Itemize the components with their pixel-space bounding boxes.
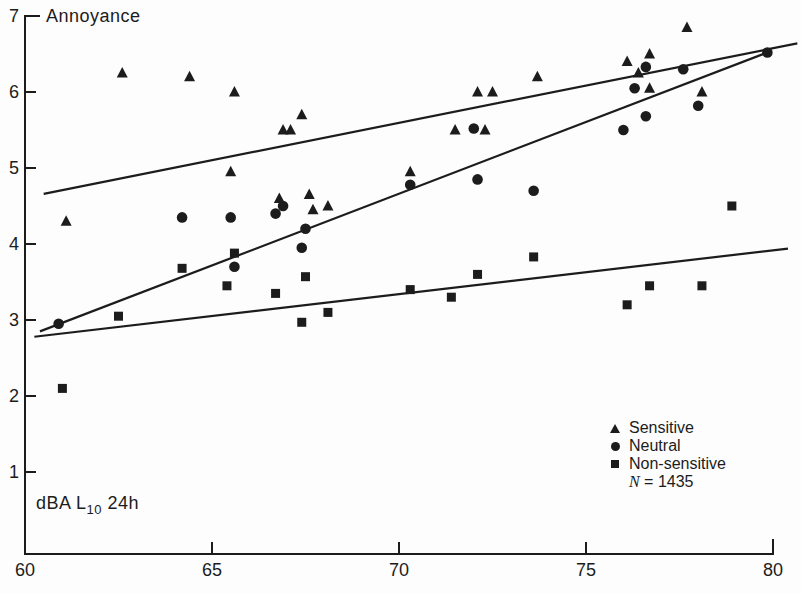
scatter-plot-figure: 12345676065707580 Annoyance dBA L10 24h …: [0, 0, 801, 593]
y-tick-label: 5: [9, 158, 19, 178]
sensitive-point: [184, 71, 195, 82]
circle-icon: [608, 442, 622, 451]
legend: Sensitive Neutral Non-sensitive N = 1435: [608, 419, 726, 491]
non-sensitive-point: [623, 300, 632, 309]
legend-item-neutral: Neutral: [608, 437, 726, 455]
sensitive-point: [296, 109, 307, 120]
non-sensitive-point: [58, 384, 67, 393]
sensitive-point: [532, 71, 543, 82]
y-axis-title: Annoyance: [46, 6, 141, 27]
non-sensitive-point: [178, 264, 187, 273]
non-sensitive-point: [473, 270, 482, 279]
non-sensitive-point: [727, 202, 736, 211]
y-tick-label: 2: [9, 386, 19, 406]
sensitive-point: [304, 189, 315, 200]
y-tick-label: 3: [9, 310, 19, 330]
legend-label-neutral: Neutral: [629, 437, 681, 455]
sensitive-point: [622, 56, 633, 67]
non-sensitive-point: [323, 308, 332, 317]
non-sensitive-point: [301, 272, 310, 281]
neutral-point: [472, 174, 483, 185]
y-tick-label: 7: [9, 6, 19, 26]
neutral-point: [678, 64, 689, 75]
legend-label-non-sensitive: Non-sensitive: [629, 455, 726, 473]
x-tick-label: 70: [389, 560, 409, 580]
sample-size-note: N = 1435: [629, 473, 726, 491]
sensitive-point: [644, 48, 655, 59]
non-sensitive-point: [406, 285, 415, 294]
neutral-point: [229, 262, 240, 273]
x-axis-label: dBA L10 24h: [36, 493, 139, 517]
non-sensitive-point: [529, 252, 538, 261]
sensitive-point: [472, 86, 483, 97]
non-sensitive-point: [697, 281, 706, 290]
sensitive-point: [487, 86, 498, 97]
legend-label-sensitive: Sensitive: [629, 419, 694, 437]
sample-size-value: = 1435: [640, 473, 694, 490]
neutral-point: [641, 62, 652, 73]
non-sensitive-point: [114, 312, 123, 321]
x-tick-label: 80: [763, 560, 783, 580]
neutral-point: [278, 201, 289, 212]
x-axis-label-pre: dBA L: [36, 493, 87, 513]
neutral-point: [641, 111, 652, 122]
neutral-point: [53, 319, 64, 330]
non-sensitive-point: [271, 289, 280, 298]
neutral-point: [693, 100, 704, 111]
neutral-point: [270, 208, 281, 219]
sensitive-point: [450, 124, 461, 135]
non-sensitive-point: [447, 293, 456, 302]
x-axis-label-subscript: 10: [87, 502, 102, 517]
neutral-point: [629, 83, 640, 94]
y-tick-label: 4: [9, 234, 19, 254]
sensitive-point: [322, 200, 333, 211]
sensitive-point: [225, 166, 236, 177]
legend-item-sensitive: Sensitive: [608, 419, 726, 437]
neutral-point: [296, 243, 307, 254]
x-tick-label: 60: [15, 560, 35, 580]
sensitive-point: [405, 166, 416, 177]
non-sensitive-point: [645, 281, 654, 290]
sensitive-point: [117, 67, 128, 78]
non-sensitive-point: [230, 249, 239, 258]
sample-size-n: N: [629, 473, 640, 490]
neutral-trend-line: [40, 52, 767, 331]
neutral-point: [762, 47, 773, 58]
square-icon: [608, 460, 622, 468]
sensitive-point: [644, 82, 655, 93]
neutral-point: [405, 179, 416, 190]
neutral-point: [177, 212, 188, 223]
sensitive-point: [61, 215, 72, 226]
triangle-icon: [608, 424, 622, 433]
x-tick-label: 65: [202, 560, 222, 580]
neutral-point: [225, 212, 236, 223]
y-tick-label: 1: [9, 462, 19, 482]
sensitive-point: [480, 124, 491, 135]
sensitive-point: [229, 86, 240, 97]
neutral-point: [300, 224, 311, 235]
sensitive-point: [307, 204, 318, 215]
neutral-point: [528, 186, 539, 197]
legend-item-non-sensitive: Non-sensitive: [608, 455, 726, 473]
non-sensitive-point: [222, 281, 231, 290]
sensitive-point: [681, 21, 692, 32]
neutral-point: [469, 123, 480, 134]
sensitive-point: [285, 124, 296, 135]
non-sensitive-point: [297, 318, 306, 327]
sensitive-point: [696, 86, 707, 97]
neutral-point: [618, 125, 629, 136]
x-axis-label-post: 24h: [102, 493, 139, 513]
y-tick-label: 6: [9, 82, 19, 102]
x-tick-label: 75: [576, 560, 596, 580]
